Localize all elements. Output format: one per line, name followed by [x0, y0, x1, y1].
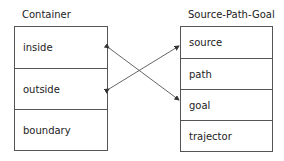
arrow-outside-source — [109, 46, 179, 89]
mapping-arrows — [0, 0, 284, 161]
arrow-inside-goal — [109, 48, 179, 100]
